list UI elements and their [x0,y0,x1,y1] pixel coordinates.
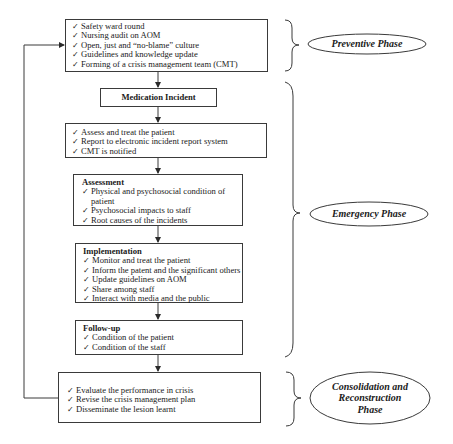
list-item: ✓CMT is notified [72,147,260,156]
check-icon: ✓ [72,50,79,59]
check-icon: ✓ [82,206,89,215]
list-item: ✓Forming of a crisis management team (CM… [72,60,261,69]
list-item: ✓Condition of the staff [83,343,236,352]
emergency-phase-label: Emergency Phase [310,202,428,226]
check-icon: ✓ [72,147,79,156]
consolidation-phase-label: Consolidation and Reconstruction Phase [310,372,430,424]
check-icon: ✓ [67,386,74,395]
list-item: ✓Disseminate the lesion learnt [67,405,254,414]
check-icon: ✓ [83,294,90,303]
emergency-brace [285,82,300,357]
initial-response-list: ✓Assess and treat the patient ✓Report to… [72,128,260,156]
assessment-box: Assessment ✓Physical and psychosocial co… [73,174,243,226]
consolidation-actions-list: ✓Evaluate the performance in crisis ✓Rev… [67,386,254,414]
check-icon: ✓ [72,137,79,146]
check-icon: ✓ [83,333,90,342]
check-icon: ✓ [72,31,79,40]
follow-up-list: ✓Condition of the patient ✓Condition of … [83,333,236,352]
preventive-brace [285,20,299,71]
initial-response-box: ✓Assess and treat the patient ✓Report to… [65,123,267,158]
list-item: ✓Physical and psychosocial condition of … [82,187,231,206]
medication-incident-label: Medication Incident [121,93,195,102]
check-icon: ✓ [83,256,90,265]
check-icon: ✓ [82,187,89,196]
follow-up-box: Follow-up ✓Condition of the patient ✓Con… [75,320,243,355]
feedback-loop-arrow [24,45,64,398]
consolidation-brace [286,372,301,426]
implementation-list: ✓Monitor and treat the patient ✓Inform t… [83,256,236,303]
check-icon: ✓ [83,275,90,284]
consolidation-actions-box: ✓Evaluate the performance in crisis ✓Rev… [58,372,261,423]
implementation-box: Implementation ✓Monitor and treat the pa… [75,243,243,303]
preventive-actions-list: ✓Safety ward round ✓Nursing audit on AOM… [72,22,261,69]
check-icon: ✓ [67,405,74,414]
preventive-phase-label: Preventive Phase [308,34,426,54]
list-item: ✓Root causes of the incidents [82,216,236,225]
check-icon: ✓ [67,395,74,404]
check-icon: ✓ [83,266,90,275]
check-icon: ✓ [72,41,79,50]
check-icon: ✓ [72,128,79,137]
preventive-actions-box: ✓Safety ward round ✓Nursing audit on AOM… [65,19,268,72]
check-icon: ✓ [83,285,90,294]
medication-incident-box: Medication Incident [100,88,217,107]
list-item: ✓Interact with media and the public [83,294,236,303]
check-icon: ✓ [82,216,89,225]
check-icon: ✓ [83,343,90,352]
check-icon: ✓ [72,22,79,31]
assessment-list: ✓Physical and psychosocial condition of … [82,187,236,225]
check-icon: ✓ [72,60,79,69]
